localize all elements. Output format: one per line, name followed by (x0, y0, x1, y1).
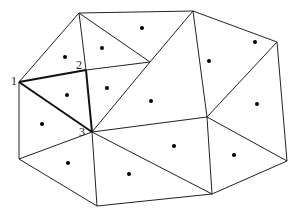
centroid-dot (65, 93, 69, 97)
centroid-dot (105, 86, 109, 90)
centroid-dot (66, 161, 70, 165)
centroid-dot (232, 153, 236, 157)
mesh-edges (19, 11, 287, 206)
mesh-svg: 123 (0, 0, 301, 216)
mesh-edge (86, 62, 150, 70)
mesh-edge (193, 11, 207, 117)
vertex-label: 1 (11, 74, 17, 88)
mesh-edge (92, 132, 97, 206)
centroid-dot (100, 46, 104, 50)
centroid-dot (172, 144, 176, 148)
mesh-edge (207, 42, 277, 117)
mesh-edge (207, 117, 212, 194)
centroid-dot (253, 40, 257, 44)
mesh-edge (212, 161, 287, 194)
mesh-edge (97, 194, 212, 206)
centroid-dot (140, 26, 144, 30)
mesh-edge (19, 159, 97, 206)
vertex-label: 2 (76, 58, 82, 72)
centroid-dot (255, 102, 259, 106)
mesh-edge (277, 42, 287, 161)
mesh-edge (92, 62, 150, 132)
centroid-dot (149, 99, 153, 103)
centroid-dots (40, 26, 259, 176)
mesh-edge (193, 11, 277, 42)
mesh-edge (79, 13, 150, 62)
mesh-edge (19, 13, 79, 82)
mesh-edge (150, 11, 193, 62)
triangulation-diagram: 123 (0, 0, 301, 216)
vertex-label: 3 (79, 125, 85, 139)
mesh-edge (92, 117, 207, 132)
mesh-edge (79, 11, 193, 13)
highlighted-edge (86, 70, 92, 132)
mesh-edge (92, 132, 212, 194)
centroid-dot (207, 59, 211, 63)
centroid-dot (127, 172, 131, 176)
mesh-edge (207, 117, 287, 161)
centroid-dot (40, 122, 44, 126)
vertex-labels: 123 (11, 58, 85, 139)
centroid-dot (63, 55, 67, 59)
